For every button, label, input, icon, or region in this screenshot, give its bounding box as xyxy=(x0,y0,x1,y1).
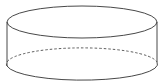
bottom-back-arc-hidden xyxy=(6,48,157,66)
cylinder-diagram xyxy=(0,0,165,84)
bottom-front-arc xyxy=(7,62,158,80)
top-face-ellipse xyxy=(7,6,157,38)
